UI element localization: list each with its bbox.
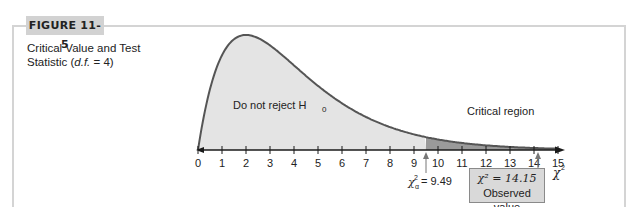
x-tick-label: 7: [363, 157, 369, 169]
x-tick-label: 0: [195, 157, 201, 169]
x-tick-label: 4: [291, 157, 297, 169]
chi-alpha-sub: α: [415, 183, 419, 190]
axis-arrow-right-icon: [555, 147, 565, 154]
x-axis-label-sup: 2: [561, 164, 565, 171]
critical-value-label: = 9.49: [421, 175, 452, 187]
x-tick-label: 11: [456, 157, 467, 169]
critical-arrow-icon: [423, 152, 429, 159]
chi-square-chart: 0123456789101112131415 Do not reject H 0…: [0, 0, 642, 207]
x-tick-label: 10: [432, 157, 444, 169]
x-tick-label: 1: [219, 157, 225, 169]
x-axis-label: χ: [552, 166, 561, 180]
x-tick-label: 3: [267, 157, 273, 169]
accept-region-area: [198, 35, 426, 150]
observed-value-box: χ² = 14.15 Observed value: [469, 168, 545, 203]
critical-region-label: Critical region: [467, 105, 534, 117]
x-tick-label: 8: [387, 157, 393, 169]
observed-arrow-icon: [535, 152, 541, 159]
observed-caption: Observed value: [470, 186, 544, 207]
accept-region-label: Do not reject H: [233, 99, 306, 111]
accept-region-subscript: 0: [322, 105, 327, 114]
x-tick-label: 5: [315, 157, 321, 169]
x-tick-label: 6: [339, 157, 345, 169]
chi-alpha-sup: 2: [414, 174, 418, 181]
x-tick-label: 9: [411, 157, 417, 169]
observed-statistic: χ² = 14.15: [470, 172, 544, 186]
x-tick-label: 2: [243, 157, 249, 169]
